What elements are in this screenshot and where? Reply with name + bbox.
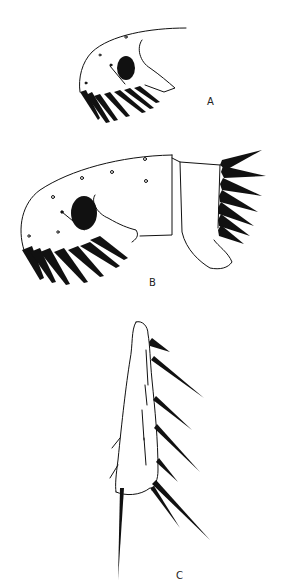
- panel-label-c: C: [176, 570, 183, 581]
- panel-c-drawing: [110, 322, 158, 495]
- panel-label-a: A: [207, 96, 214, 107]
- panel-a-drawing: [80, 28, 187, 92]
- panel-b-drawing: [21, 155, 232, 269]
- line-drawing: [0, 0, 282, 585]
- panel-label-b: B: [149, 277, 156, 288]
- figure-plate: A B C: [0, 0, 282, 585]
- eye-spot-a: [117, 56, 135, 80]
- eye-spot-b: [71, 196, 97, 230]
